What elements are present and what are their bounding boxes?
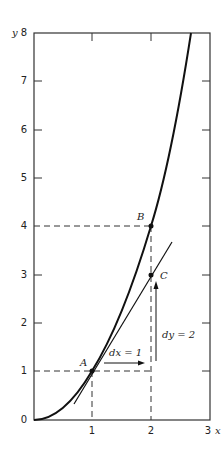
point-b (149, 224, 154, 229)
y-tick-1: 1 (21, 365, 27, 376)
dy-label: dy = 2 (162, 329, 195, 340)
y-tick-4: 4 (21, 220, 27, 231)
y-tick-8: 8 (21, 27, 27, 38)
x-ticks-top (92, 33, 151, 41)
y-tick-5: 5 (21, 172, 27, 183)
y-tick-7: 7 (21, 75, 27, 86)
guide-lines (34, 226, 151, 420)
calculus-diagram: 8 7 6 5 4 3 2 1 0 y 1 2 3 x A B C dx = 1… (0, 0, 224, 458)
y-tick-6: 6 (21, 124, 27, 135)
plot-frame (34, 33, 210, 420)
y-tick-0: 0 (21, 414, 27, 425)
point-a-label: A (79, 357, 87, 368)
y-ticks-left (34, 81, 42, 323)
point-a (90, 369, 95, 374)
point-c-label: C (160, 270, 168, 281)
x-axis-label: x (215, 425, 221, 436)
dy-arrowhead-icon (154, 281, 159, 289)
x-tick-3: 3 (205, 425, 211, 436)
point-b-label: B (136, 211, 144, 222)
tangent-line (74, 242, 172, 404)
x-tick-2: 2 (148, 425, 154, 436)
y-axis-label: y (11, 27, 18, 38)
y-ticks-right (202, 81, 210, 371)
x-tick-1: 1 (89, 425, 95, 436)
point-c (149, 273, 154, 278)
dx-arrowhead-icon (138, 361, 145, 366)
dx-label: dx = 1 (109, 347, 142, 358)
y-tick-2: 2 (21, 317, 27, 328)
y-tick-3: 3 (21, 269, 27, 280)
